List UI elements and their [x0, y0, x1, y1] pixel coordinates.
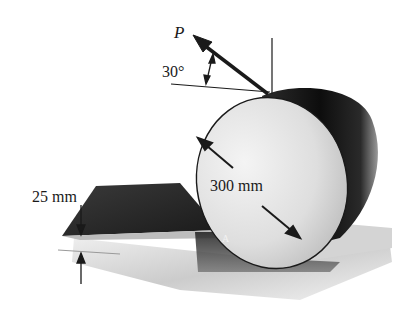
step-height-label: 25 mm — [32, 188, 77, 205]
force-label: P — [173, 23, 184, 42]
force-arrow — [193, 35, 268, 94]
angle-arrowhead-bottom — [204, 75, 210, 84]
diameter-label: 300 mm — [210, 177, 263, 194]
point-label: A — [222, 233, 230, 244]
angle-label: 30° — [162, 63, 184, 80]
angle-arrowhead-top — [209, 54, 215, 63]
roller-step-diagram: 300 mm A P 30° 25 mm — [0, 0, 409, 311]
step-block — [62, 183, 220, 236]
angle-dimension — [204, 54, 215, 84]
